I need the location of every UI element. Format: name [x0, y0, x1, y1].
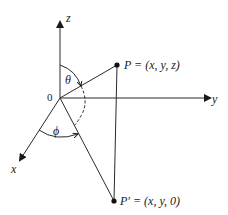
point-p-prime-label: P′ = (x, y, 0)	[119, 194, 180, 208]
point-p	[114, 62, 119, 67]
point-p-prime	[111, 198, 116, 203]
spherical-coordinates-diagram: z y x 0 θ ϕ P = (x, y, z) P′ = (x, y, 0)	[0, 0, 228, 215]
op-prime-line	[60, 98, 114, 201]
dashed-arc	[74, 86, 85, 126]
y-axis-label: y	[211, 92, 218, 106]
point-p-label: P = (x, y, z)	[123, 58, 180, 72]
p-to-p-prime-line	[114, 65, 117, 201]
theta-label: θ	[65, 73, 71, 87]
phi-label: ϕ	[53, 124, 59, 138]
z-axis-label: z	[65, 11, 71, 25]
x-axis-label: x	[10, 162, 17, 176]
origin-label: 0	[47, 91, 53, 103]
